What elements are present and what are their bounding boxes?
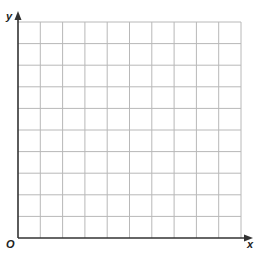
origin-label: O bbox=[6, 238, 15, 250]
y-axis-arrow-icon bbox=[15, 11, 22, 20]
grid-lines bbox=[18, 22, 241, 238]
x-axis-label: x bbox=[246, 238, 254, 250]
coordinate-grid: y x O bbox=[0, 0, 264, 262]
y-axis-label: y bbox=[5, 10, 13, 22]
